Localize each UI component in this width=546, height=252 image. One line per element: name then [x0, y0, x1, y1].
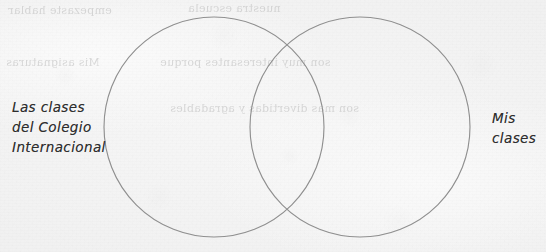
venn-label-left: Las clases del Colegio Internacional [12, 97, 106, 157]
venn-circle-left [104, 17, 324, 237]
venn-circle-right [250, 17, 470, 237]
worksheet-page: empezaste hablar nuestra escuela Mis asi… [0, 0, 546, 252]
venn-label-right: Mis clases [492, 108, 536, 148]
